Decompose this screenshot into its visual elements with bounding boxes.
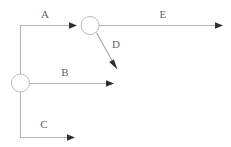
edge-label-e: E (160, 9, 167, 20)
edge-b-arrowhead-icon (106, 80, 114, 87)
edge-d-arrowhead-icon (109, 59, 117, 69)
edge-d-line (97, 33, 114, 63)
edge-label-a: A (41, 9, 49, 20)
edge-label-b: B (61, 67, 69, 78)
edge-a-arrowhead-icon (69, 22, 77, 29)
edge-c-arrowhead-icon (67, 134, 75, 141)
junction-node-left[interactable] (12, 74, 30, 92)
diagram-vector-layer (0, 0, 231, 147)
diagram-canvas: A B C D E (0, 0, 231, 147)
junction-node-top[interactable] (81, 17, 99, 35)
edge-label-c: C (40, 119, 48, 130)
edge-label-d: D (112, 39, 120, 50)
edge-e-arrowhead-icon (215, 22, 223, 29)
